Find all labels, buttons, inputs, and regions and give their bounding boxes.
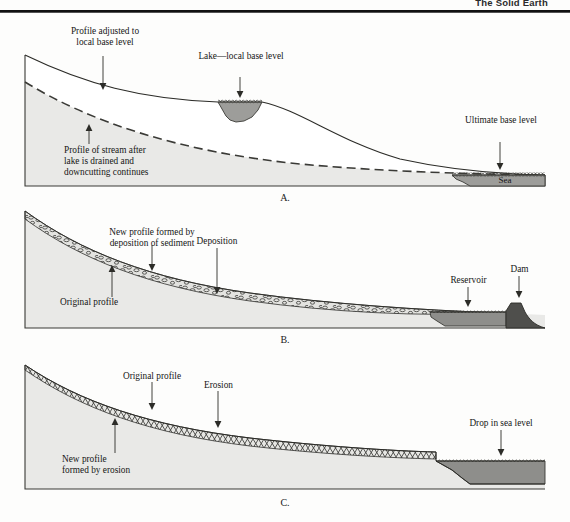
- dam-label: Dam: [502, 264, 537, 275]
- original-profile-label-c: Original profile: [111, 371, 193, 382]
- running-head: The Solid Earth: [475, 0, 548, 8]
- panel-a: Sea Profile adjusted to local base level…: [0, 14, 570, 192]
- new-profile-erosion-label: New profile formed by erosion: [62, 454, 166, 476]
- reservoir-label: Reservoir: [438, 275, 499, 286]
- lowered-sea-water-surface-icon: [436, 459, 545, 463]
- profile-of-stream-after-label: Profile of stream after lake is drained …: [64, 145, 199, 179]
- panel-b: New profile formed by deposition of sedi…: [0, 205, 570, 335]
- reservoir-water-body: [430, 312, 506, 326]
- reservoir-water-surface-icon: [430, 310, 506, 314]
- drop-in-sea-level-label: Drop in sea level: [450, 418, 552, 429]
- erosion-label: Erosion: [190, 380, 247, 391]
- lake-local-base-level-label: Lake—local base level: [185, 51, 297, 62]
- lake-water-surface-icon: [218, 100, 262, 104]
- figure-page: The Solid Earth: [0, 0, 570, 522]
- profile-adjusted-label: Profile adjusted to local base level: [45, 26, 165, 48]
- header-rule: [0, 10, 570, 13]
- sea-label: Sea: [499, 175, 512, 185]
- panel-label-a: A.: [265, 192, 305, 203]
- panel-label-b: B.: [265, 334, 305, 345]
- deposition-label: Deposition: [180, 236, 254, 247]
- panel-c: Original profile Erosion Drop in sea lev…: [0, 358, 570, 498]
- ultimate-base-level-label: Ultimate base level: [449, 115, 553, 126]
- original-profile-label-b: Original profile: [60, 297, 150, 308]
- panel-label-c: C.: [265, 497, 305, 508]
- panel-b-drawing: [0, 205, 570, 335]
